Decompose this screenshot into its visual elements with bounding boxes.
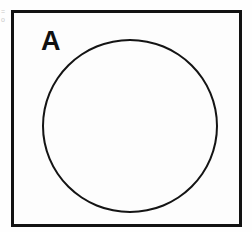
venn-diagram-canvas: = o A	[0, 0, 252, 232]
scan-artifact-mark-2: o	[1, 16, 5, 23]
universal-set-rectangle: A	[11, 10, 242, 227]
scan-artifact-mark-1: =	[1, 8, 5, 15]
set-a-label: A	[41, 28, 61, 55]
set-a-circle	[42, 39, 218, 213]
